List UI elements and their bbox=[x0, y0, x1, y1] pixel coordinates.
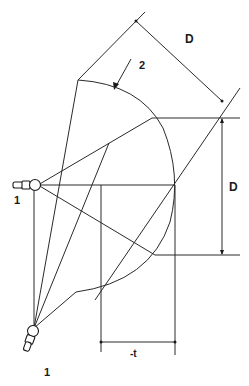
ray bbox=[34, 292, 76, 328]
geometry-diagram: D 2 D -t bbox=[0, 0, 249, 386]
upper-source-rays bbox=[38, 118, 175, 255]
source-label-upper: 1 bbox=[14, 194, 20, 206]
dim-tick bbox=[135, 20, 138, 23]
ray bbox=[38, 118, 152, 185]
arrow-shaft bbox=[116, 59, 131, 86]
source-label-lower: 1 bbox=[44, 366, 50, 378]
dim-tick bbox=[100, 341, 103, 344]
ray bbox=[38, 185, 155, 255]
top-dimension: D bbox=[78, 12, 224, 103]
dimension-line-top bbox=[136, 21, 222, 101]
dim-tick bbox=[174, 341, 177, 344]
ray bbox=[34, 143, 109, 328]
ray bbox=[34, 80, 78, 328]
arrow-2: 2 bbox=[113, 59, 145, 90]
extension-line-top-left bbox=[78, 12, 145, 80]
dim-label-bottom: -t bbox=[130, 348, 137, 359]
source-body bbox=[22, 181, 30, 189]
dim-label-right: D bbox=[229, 180, 238, 194]
upper-source: 1 bbox=[13, 180, 41, 207]
bottom-dimension: -t bbox=[100, 341, 177, 360]
arrow-label: 2 bbox=[139, 59, 145, 71]
lower-source bbox=[21, 324, 40, 353]
arrowhead-icon bbox=[220, 118, 224, 123]
dim-label-top: D bbox=[185, 32, 194, 46]
dim-tick bbox=[221, 100, 224, 103]
arrowhead-icon bbox=[220, 250, 224, 255]
sector-arc bbox=[76, 80, 175, 292]
source-lens-icon bbox=[30, 180, 41, 191]
diagonal-line bbox=[95, 88, 240, 300]
lower-source-rays bbox=[34, 80, 109, 328]
source-body bbox=[23, 341, 32, 352]
